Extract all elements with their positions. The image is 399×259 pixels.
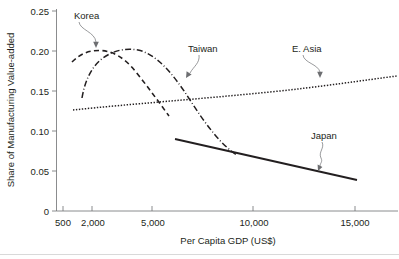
x-axis [57,206,399,211]
series-label-japan: Japan [311,130,337,141]
y-tick-label-0.15: 0.15 [31,86,50,97]
annotation-japan [318,142,323,171]
series-line-korea [72,51,169,117]
x-axis-title: Per Capita GDP (US$) [180,235,275,246]
chart-figure: 0.25 0.20 0.15 0.10 0.05 0 500 2,000 5,0… [0,0,399,259]
series-label-korea: Korea [74,10,100,21]
y-tick-label-0: 0 [44,206,49,217]
y-tick-label-0.05: 0.05 [31,166,50,177]
chart-canvas: 0.25 0.20 0.15 0.10 0.05 0 500 2,000 5,0… [0,0,399,259]
x-tick-label-2000: 2,000 [81,217,105,228]
series-label-taiwan: Taiwan [188,43,218,54]
x-tick-label-10000: 10,000 [239,217,268,228]
x-tick-label-5000: 5,000 [141,217,165,228]
annotation-easia [303,55,323,78]
x-tick-label-15000: 15,000 [340,217,369,228]
y-tick-label-0.10: 0.10 [31,126,50,137]
y-tick-label-0.25: 0.25 [31,6,50,17]
series-line-easia [73,76,397,110]
x-tick-label-500: 500 [55,217,71,228]
y-axis [52,9,57,211]
y-axis-title: Share of Manufacturing Value-added [5,33,16,188]
annotation-taiwan [186,55,199,78]
series-line-japan [175,139,357,180]
y-tick-label-0.20: 0.20 [31,46,50,57]
annotation-korea [79,22,99,48]
series-label-easia: E. Asia [292,43,322,54]
